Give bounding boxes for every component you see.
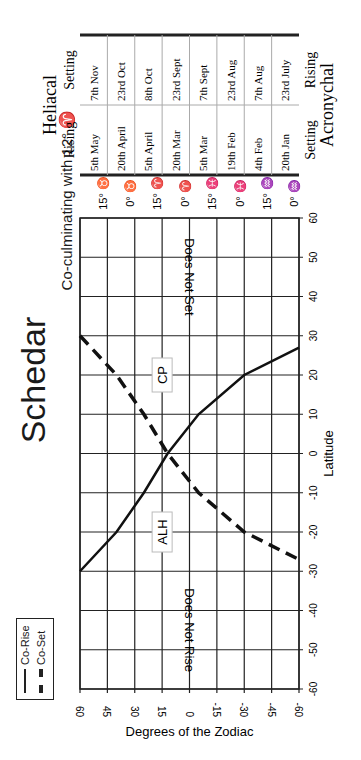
y-axis-label: Degrees of the Zodiac: [126, 724, 254, 739]
col-header-setting: Setting: [62, 50, 77, 90]
zodiac-sign-label: 0° ♒: [288, 179, 301, 207]
table-cell-rising: 20th Jan: [279, 134, 291, 171]
x-tick-label: -20: [308, 524, 319, 539]
y-tick-label: 60: [74, 706, 85, 718]
table-cell-rising: 5th April: [142, 132, 154, 171]
y-tick-label: -15: [211, 703, 222, 718]
y-tick-label: 0: [184, 711, 195, 717]
y-tick-label: -30: [238, 703, 249, 718]
x-tick-label: 30: [308, 330, 319, 342]
y-tick-label: -60: [293, 703, 304, 718]
does-not-rise-label: Does Not Rise: [182, 588, 197, 672]
alh-label: ALH: [155, 519, 170, 544]
x-tick-label: 60: [308, 212, 319, 224]
table-cell-setting: 8th Oct: [142, 68, 154, 101]
zodiac-sign-label: 15° ♈: [151, 176, 164, 210]
does-not-set-label: Does Not Set: [182, 238, 197, 316]
x-tick-label: 20: [308, 369, 319, 381]
col-header-rising: Rising: [62, 122, 77, 159]
table-cell-setting: 7th Sept: [197, 65, 209, 101]
zodiac-sign-label: 15° ♉: [97, 176, 110, 210]
zodiac-sign-label: 0° ♈: [179, 179, 192, 207]
table-header-heliacal: Heliacal: [40, 75, 60, 135]
y-tick-label: 15: [156, 706, 167, 718]
cp-label: CP: [155, 366, 170, 384]
table-cell-rising: 5th Mar: [197, 136, 209, 171]
y-tick-label: -45: [266, 703, 277, 718]
x-tick-label: -60: [308, 681, 319, 696]
table-cell-setting: 23rd Oct: [115, 62, 127, 101]
x-axis-label: Latitude: [321, 430, 336, 476]
col-footer-rising: Rising: [303, 52, 318, 89]
table-cell-rising: 19th Feb: [225, 132, 237, 171]
table-cell-setting: 23rd July: [279, 59, 291, 101]
y-tick-label: 45: [101, 706, 112, 718]
zodiac-sign-label: 0° ♉: [124, 179, 137, 207]
y-tick-label: 30: [129, 706, 140, 718]
x-tick-label: 10: [308, 408, 319, 420]
zodiac-sign-label: 15° ♒: [261, 176, 274, 210]
table-footer-acronychal: Acronychal: [317, 63, 337, 147]
x-tick-label: -40: [308, 603, 319, 618]
chart-page: Schedar Co-culminating with 12° ♈ Co-Ris…: [0, 0, 361, 760]
col-footer-setting: Setting: [303, 120, 318, 160]
zodiac-sign-label: 0° ♓: [234, 179, 247, 207]
table-cell-rising: 5th May: [88, 134, 100, 171]
table-cell-setting: 23rd Aug: [225, 59, 237, 101]
plot-area: -60-50-40-30-20-100102030405060604530150…: [0, 0, 361, 760]
zodiac-sign-label: 15° ♓: [206, 176, 219, 210]
x-tick-label: 0: [308, 450, 319, 456]
table-cell-rising: 20th Mar: [170, 130, 182, 171]
table-cell-rising: 20th April: [115, 126, 127, 171]
x-tick-label: -30: [308, 564, 319, 579]
table-cell-rising: 4th Feb: [252, 137, 264, 171]
table-cell-setting: 7th Aug: [252, 65, 264, 101]
table-cell-setting: 7th Nov: [88, 65, 100, 101]
x-tick-label: -50: [308, 642, 319, 657]
x-tick-label: 40: [308, 291, 319, 303]
table-cell-setting: 23rd Sept: [170, 59, 182, 101]
x-tick-label: 50: [308, 251, 319, 263]
x-tick-label: -10: [308, 485, 319, 500]
